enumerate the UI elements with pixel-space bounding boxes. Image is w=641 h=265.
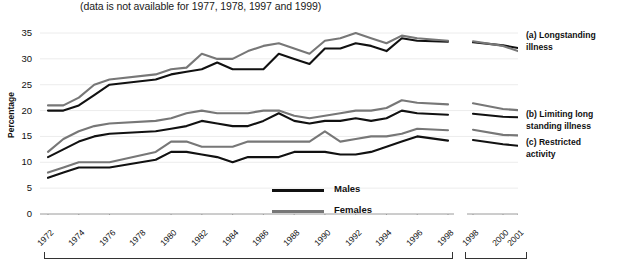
x-tick-label: 1972	[24, 227, 55, 258]
y-tick-label: 35	[10, 27, 32, 38]
y-tick-label: 15	[10, 130, 32, 141]
x-tick-label: 1992	[332, 227, 363, 258]
series-line-break-c-males	[473, 140, 518, 146]
series-label-b: (b) Limiting long standing illness	[526, 109, 638, 132]
y-tick-label: 10	[10, 156, 32, 167]
legend-swatch-males	[272, 189, 324, 192]
x-tick-label: 1980	[147, 227, 178, 258]
legend-label-females: Females	[334, 204, 372, 215]
series-label-a-line1: (a) Longstanding	[526, 30, 638, 42]
x-tick-label: 1996	[394, 227, 425, 258]
series-line-break-b-males	[473, 114, 518, 118]
series-label-a-line2: illness	[526, 42, 638, 54]
x-tick-label: 1974	[55, 227, 86, 258]
x-tick-label: 1982	[178, 227, 209, 258]
legend-swatch-females	[272, 210, 324, 213]
x-tick-label: 1984	[209, 227, 240, 258]
series-label-b-line2: standing illness	[526, 121, 638, 133]
x-tick-label: 1990	[301, 227, 332, 258]
x-tick-label: 1994	[363, 227, 394, 258]
series-line-b-males	[48, 111, 448, 158]
series-line-a-males	[48, 38, 448, 110]
series-label-c-line1: (c) Restricted	[526, 137, 638, 149]
x-tick-label: 1988	[271, 227, 302, 258]
legend-label-males: Males	[334, 183, 360, 194]
series-line-break-c-females	[473, 130, 518, 136]
chart-legend: Males Females	[272, 183, 432, 217]
axis-rule	[465, 258, 526, 259]
axis-break-gap	[454, 212, 467, 215]
series-line-break-b-females	[473, 103, 518, 110]
axis-rule	[44, 258, 452, 259]
y-tick-label: 20	[10, 105, 32, 116]
series-label-a: (a) Longstanding illness	[526, 30, 638, 53]
y-tick-label: 0	[10, 208, 32, 219]
y-tick-label: 5	[10, 182, 32, 193]
axis-rule-cap	[44, 252, 45, 259]
y-tick-label: 30	[10, 53, 32, 64]
series-line-c-females	[48, 129, 448, 173]
chart-subtitle: (data is not available for 1977, 1978, 1…	[80, 0, 400, 14]
y-tick-label: 25	[10, 79, 32, 90]
series-label-b-line1: (b) Limiting long	[526, 109, 638, 121]
series-label-c: (c) Restricted activity	[526, 137, 638, 160]
series-label-c-line2: activity	[526, 149, 638, 161]
axis-rule-cap	[526, 252, 527, 259]
axis-rule-cap	[465, 252, 466, 259]
x-tick-label: 1986	[240, 227, 271, 258]
x-tick-label: 1976	[86, 227, 117, 258]
x-tick-label: 1978	[117, 227, 148, 258]
axis-rule-cap	[452, 252, 453, 259]
chart-root: (data is not available for 1977, 1978, 1…	[0, 0, 641, 265]
